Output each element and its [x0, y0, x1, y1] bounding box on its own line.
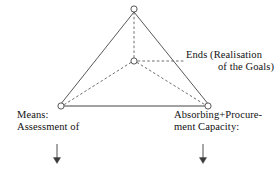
- means-label: Means: Assessment of: [17, 109, 79, 133]
- arrow-down-capacity: [199, 144, 206, 164]
- capacity-label-line-1: Absorbing+Procure-: [174, 109, 262, 121]
- diagram-root: Ends (Realisation of the Goals) Means: A…: [0, 0, 280, 169]
- means-label-line-2: Assessment of: [17, 121, 79, 133]
- means-label-line-1: Means:: [17, 109, 79, 121]
- arrows-group: [53, 144, 206, 164]
- ends-label-line-2: of the Goals): [186, 61, 274, 73]
- dashed-center-to-bottom-left: [64, 62, 131, 104]
- center-node: [131, 58, 137, 64]
- capacity-label: Absorbing+Procure- ment Capacity:: [174, 109, 262, 133]
- ends-label-line-1: Ends (Realisation: [186, 49, 274, 61]
- capacity-label-line-2: ment Capacity:: [174, 121, 262, 133]
- ends-label: Ends (Realisation of the Goals): [186, 49, 274, 73]
- edge-apex-to-bottom-left: [62, 12, 135, 103]
- triangle-diagram-svg: [0, 0, 280, 169]
- arrow-down-means: [53, 144, 60, 164]
- apex-node: [131, 6, 137, 12]
